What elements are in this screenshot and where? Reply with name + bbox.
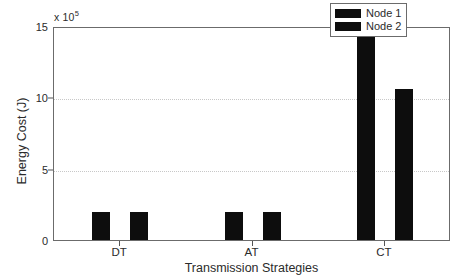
y-axis-ticks: 051015 xyxy=(0,0,48,280)
bar-dt-node-2 xyxy=(130,212,148,240)
x-tick-label-ct: CT xyxy=(354,246,414,258)
y-tick-label-15: 15 xyxy=(22,21,48,33)
bars-layer xyxy=(54,28,449,240)
bar-ct-node-1 xyxy=(357,37,375,240)
bar-dt-node-1 xyxy=(92,212,110,240)
x-tick-label-dt: DT xyxy=(89,246,149,258)
energy-cost-bar-chart: x 105 Energy Cost (J) 051015 DTATCT Tran… xyxy=(0,0,465,280)
bar-at-node-1 xyxy=(225,212,243,240)
y-axis-exponent-power: 5 xyxy=(75,9,79,18)
y-tick-label-0: 0 xyxy=(22,235,48,247)
chart-legend: Node 1Node 2 xyxy=(330,3,407,37)
y-axis-exponent-label: x 105 xyxy=(54,9,79,23)
legend-item-node-2: Node 2 xyxy=(335,20,401,33)
y-tick-label-10: 10 xyxy=(22,92,48,104)
plot-area xyxy=(53,27,450,241)
bar-ct-node-2 xyxy=(395,89,413,240)
legend-item-node-1: Node 1 xyxy=(335,7,401,20)
legend-label-2: Node 2 xyxy=(366,20,401,33)
y-tick-label-5: 5 xyxy=(22,164,48,176)
x-axis-label: Transmission Strategies xyxy=(53,261,450,275)
legend-label-1: Node 1 xyxy=(366,7,401,20)
legend-swatch-icon-1 xyxy=(335,9,361,18)
x-tick-label-at: AT xyxy=(222,246,282,258)
y-axis-exponent-prefix: x 10 xyxy=(54,11,75,23)
legend-swatch-icon-2 xyxy=(335,22,361,31)
bar-at-node-2 xyxy=(263,212,281,240)
